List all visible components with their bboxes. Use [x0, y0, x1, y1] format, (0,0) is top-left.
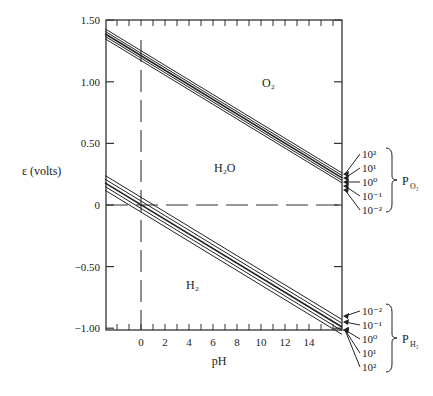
- arrow-icon: [345, 330, 360, 367]
- o2-bracket: [386, 148, 397, 212]
- h2-pressure-label: 10⁰: [362, 333, 378, 345]
- pourbaix-chart: 1.501.000.500−0.50−1.0002468101214pHε (v…: [0, 0, 433, 396]
- plot-area: 1.501.000.500−0.50−1.0002468101214pHε (v…: [22, 14, 419, 373]
- region-label-o2: O₂: [262, 76, 275, 90]
- region-label-h2o: H₂O: [214, 161, 236, 175]
- h2-pressure-label: 10⁻¹: [362, 319, 382, 331]
- h2-group-label: P: [402, 332, 409, 346]
- o2-pressure-label: 10⁻²: [362, 204, 383, 216]
- y-tick-label: 1.00: [81, 76, 101, 88]
- arrowhead-icon: [343, 313, 349, 319]
- o2-pressure-label: 10⁻¹: [362, 190, 382, 202]
- y-tick-label: 0: [95, 199, 101, 211]
- arrow-icon: [345, 154, 360, 174]
- h2-pressure-label: 10⁻²: [362, 305, 383, 317]
- x-tick-label: 10: [256, 336, 268, 348]
- region-label-h2: H₂: [186, 278, 199, 292]
- y-tick-label: −1.00: [75, 322, 101, 334]
- arrow-icon: [345, 190, 360, 210]
- x-tick-label: 8: [234, 336, 240, 348]
- y-tick-label: 1.50: [81, 14, 101, 26]
- o2-group-label: P: [402, 174, 409, 188]
- h2-group-subscript: H₂: [410, 340, 419, 349]
- x-axis-label: pH: [212, 354, 227, 368]
- y-axis-label: ε (volts): [22, 164, 61, 178]
- x-tick-label: 12: [280, 336, 291, 348]
- y-tick-label: 0.50: [81, 137, 101, 149]
- x-tick-label: 14: [304, 336, 316, 348]
- o2-pressure-label: 10¹: [362, 162, 376, 174]
- o2-pressure-label: 10²: [362, 148, 377, 160]
- x-tick-label: 0: [138, 336, 144, 348]
- y-tick-label: −0.50: [75, 261, 101, 273]
- o2-group-subscript: O₂: [410, 182, 419, 191]
- x-tick-label: 2: [162, 336, 168, 348]
- x-tick-label: 4: [186, 336, 192, 348]
- arrowhead-icon: [343, 319, 349, 325]
- x-tick-label: 6: [210, 336, 216, 348]
- o2-pressure-label: 10⁰: [362, 176, 378, 188]
- h2-pressure-label: 10¹: [362, 347, 376, 359]
- h2-pressure-label: 10²: [362, 361, 377, 373]
- h2-bracket: [386, 304, 397, 372]
